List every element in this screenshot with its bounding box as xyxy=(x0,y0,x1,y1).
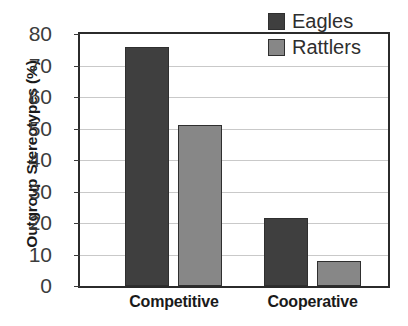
bar-chart-figure: Outgroup Stereotypes (%) 010203040506070… xyxy=(0,0,408,326)
legend-label-eagles: Eagles xyxy=(292,11,353,31)
legend-item-eagles: Eagles xyxy=(268,10,361,32)
y-axis-tick xyxy=(74,192,80,193)
plot-area: 01020304050607080 xyxy=(78,32,390,288)
bar-eagles-competitive xyxy=(125,47,169,286)
y-axis-tick xyxy=(74,97,80,98)
x-axis-label-cooperative: Cooperative xyxy=(213,293,408,311)
y-axis-tick-label: 0 xyxy=(0,275,52,296)
y-axis-tick-label: 60 xyxy=(0,86,52,107)
chart-legend: Eagles Rattlers xyxy=(268,10,361,58)
y-axis-tick xyxy=(74,223,80,224)
y-axis-tick xyxy=(74,129,80,130)
legend-label-rattlers: Rattlers xyxy=(292,37,361,57)
plot-inner: 01020304050607080 xyxy=(80,34,388,286)
y-axis-tick-label: 30 xyxy=(0,181,52,202)
y-axis-tick-label: 70 xyxy=(0,55,52,76)
y-axis-tick-label: 20 xyxy=(0,212,52,233)
legend-item-rattlers: Rattlers xyxy=(268,36,361,58)
legend-swatch-rattlers xyxy=(268,39,285,56)
bar-eagles-cooperative xyxy=(264,218,308,286)
y-axis-tick-label: 80 xyxy=(0,23,52,44)
legend-swatch-eagles xyxy=(268,13,285,30)
y-axis-tick-label: 40 xyxy=(0,149,52,170)
y-axis-tick xyxy=(74,66,80,67)
y-axis-tick xyxy=(74,286,80,287)
y-axis-tick xyxy=(74,255,80,256)
y-axis-tick xyxy=(74,160,80,161)
bar-rattlers-competitive xyxy=(178,125,222,286)
bar-rattlers-cooperative xyxy=(317,261,361,286)
y-axis-tick-label: 10 xyxy=(0,244,52,265)
y-axis-tick-label: 50 xyxy=(0,118,52,139)
y-axis-tick xyxy=(74,34,80,35)
